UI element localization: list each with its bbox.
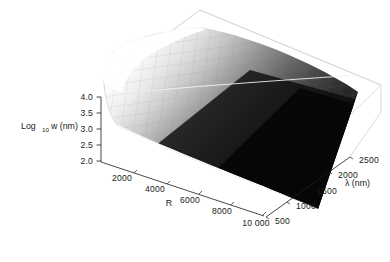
z-axis: 4.0 3.5 3.0 2.5 2.0 Log 10 w (nm) [21,92,101,166]
x-tick-4000 [167,181,170,184]
z-axis-title: Log 10 w (nm) [21,121,78,133]
box-right-lower-edge [350,112,381,157]
x-axis-title: R [166,198,172,208]
z-axis-title-subscript: 10 [42,126,49,133]
y-tick-2500 [350,157,353,159]
x-tick-2000 [134,170,137,173]
y-axis-title: λ (nm) [345,178,370,188]
x-tick-label-1: 4000 [145,184,165,194]
x-tick-10000 [263,212,266,215]
y-tick-label-1: 1000 [296,201,316,211]
y-tick-label-2: 1500 [317,186,337,196]
z-tick-label-4: 4.0 [80,92,93,102]
z-tick-label-2: 3.0 [80,124,93,134]
x-tick-label-2: 6000 [180,195,200,205]
x-tick-8000 [231,202,234,205]
z-axis-title-rest: w (nm) [50,121,78,131]
surface-mesh [95,20,380,230]
y-tick-1000 [287,202,290,204]
x-tick-label-4: 10 000 [242,218,270,228]
z-axis-ticks [97,97,102,161]
z-tick-label-3: 3.5 [80,108,93,118]
y-tick-label-4: 2500 [359,155,379,165]
plot-canvas: 4.0 3.5 3.0 2.5 2.0 Log 10 w (nm) 2000 [0,0,390,262]
surface-plot-figure: 4.0 3.5 3.0 2.5 2.0 Log 10 w (nm) 2000 [0,0,390,262]
z-tick-label-1: 2.5 [80,140,93,150]
x-tick-label-0: 2000 [112,173,132,183]
y-tick-label-0: 500 [275,216,290,226]
x-tick-label-3: 8000 [212,206,232,216]
z-axis-title-base: Log [21,121,36,131]
z-tick-label-0: 2.0 [80,156,93,166]
x-tick-6000 [199,191,202,194]
